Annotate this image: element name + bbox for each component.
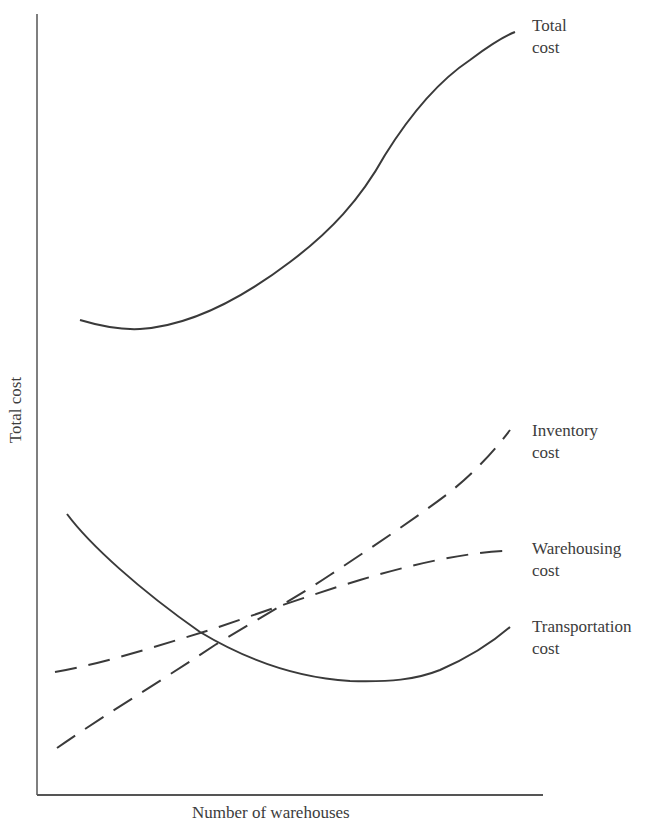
inventory-cost-label: Inventory cost — [532, 420, 598, 464]
label-line: Warehousing — [532, 538, 621, 560]
transportation-cost-curve — [67, 514, 510, 681]
x-axis-label: Number of warehouses — [192, 803, 350, 823]
label-line: Total — [532, 15, 567, 37]
label-line: cost — [532, 442, 598, 464]
warehousing-cost-label: Warehousing cost — [532, 538, 621, 582]
label-line: Inventory — [532, 420, 598, 442]
label-line: cost — [532, 37, 567, 59]
total-cost-label: Total cost — [532, 15, 567, 59]
y-axis-label: Total cost — [6, 377, 26, 443]
label-line: Transportation — [532, 616, 632, 638]
warehousing-cost-curve — [55, 551, 510, 672]
label-line: cost — [532, 638, 632, 660]
inventory-cost-curve — [57, 430, 510, 748]
cost-tradeoff-chart — [0, 0, 658, 828]
label-line: cost — [532, 560, 621, 582]
transportation-cost-label: Transportation cost — [532, 616, 632, 660]
total-cost-curve — [80, 32, 515, 329]
